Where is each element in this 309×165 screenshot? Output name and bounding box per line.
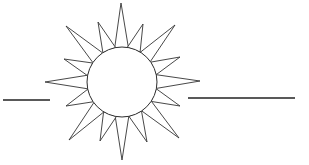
sun-ray [115, 116, 129, 160]
sun-diagram [0, 0, 309, 165]
sun-ray [115, 3, 129, 48]
sun-ray [45, 75, 88, 89]
sun-ray [156, 75, 200, 89]
sun-disc [87, 47, 157, 117]
sun-drawing [0, 0, 309, 165]
